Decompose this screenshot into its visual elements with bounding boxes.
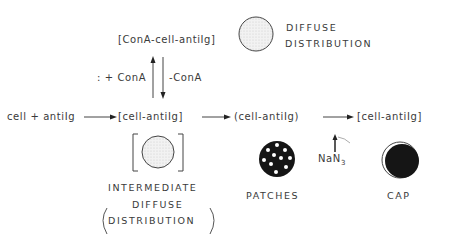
top-complex-label: [ConA-cell-antiIg] [118,34,216,45]
complex-1-label: [cell-antiIg] [118,111,183,122]
inhibitor-label: NaN3 [318,153,346,167]
intermediate-cell-icon [133,134,183,171]
arrow-2-icon [202,115,231,120]
diffuse-cell-icon [239,17,273,51]
plus-cona-label: : + ConA [97,72,146,83]
inhibitor-text: NaN [318,153,341,164]
arrow-3-icon [323,115,354,120]
diagram-graphics [0,0,449,246]
patches-cell-icon [259,141,295,177]
inhibitor-subscript: 3 [341,159,346,167]
diffuse-top-label: DIFFUSE [286,22,337,33]
complex-3-label: [cell-antiIg] [357,111,422,122]
right-paren [210,208,214,234]
intermediate-label: INTERMEDIATE [108,182,197,193]
distribution-mid-label: DISTRIBUTION [108,215,195,226]
up-arrow-icon [151,56,156,98]
minus-cona-label: -ConA [169,72,202,83]
arrow-1-icon [84,115,117,120]
complex-2-label: (cell-antiIg) [234,111,299,122]
inhibitor-arrow-icon [333,134,351,152]
distribution-top-label: DISTRIBUTION [285,38,372,49]
reactants-label: cell + antiIg [7,111,75,122]
diffuse-mid-label: DIFFUSE [132,199,183,210]
down-arrow-icon [161,57,166,99]
cap-label: CAP [387,190,411,201]
patches-label: PATCHES [246,190,299,201]
left-paren [103,208,107,234]
cap-cell-icon [382,142,419,178]
